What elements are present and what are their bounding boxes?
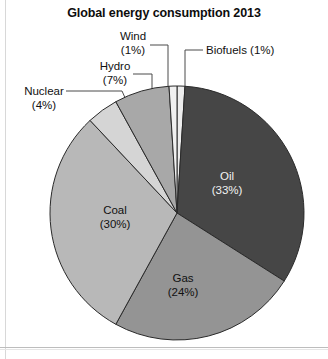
pie-label-gas: Gas (24%)	[150, 272, 216, 299]
pie-label-biofuels: Biofuels (1%)	[206, 44, 316, 58]
pie-label-coal-name: Coal	[82, 204, 148, 218]
pie-label-coal-pct: (30%)	[82, 218, 148, 232]
pie-label-nuclear: Nuclear (4%)	[8, 85, 80, 112]
pie-label-nuclear-name: Nuclear	[8, 85, 80, 99]
pie-label-oil-name: Oil	[194, 170, 260, 184]
pie-label-biofuels-text: Biofuels (1%)	[206, 44, 316, 58]
pie-label-wind-pct: (1%)	[104, 44, 162, 58]
pie-label-nuclear-pct: (4%)	[8, 99, 80, 113]
pie-label-coal: Coal (30%)	[82, 204, 148, 231]
pie-label-wind: Wind (1%)	[104, 30, 162, 57]
pie-label-hydro-name: Hydro	[86, 60, 144, 74]
pie-label-gas-name: Gas	[150, 272, 216, 286]
pie-label-oil: Oil (33%)	[194, 170, 260, 197]
pie-label-hydro: Hydro (7%)	[86, 60, 144, 87]
pie-label-gas-pct: (24%)	[150, 286, 216, 300]
chart-page: Global energy consumption 2013	[0, 0, 328, 359]
pie-label-hydro-pct: (7%)	[86, 74, 144, 88]
pie-label-wind-name: Wind	[104, 30, 162, 44]
pie-label-oil-pct: (33%)	[194, 184, 260, 198]
